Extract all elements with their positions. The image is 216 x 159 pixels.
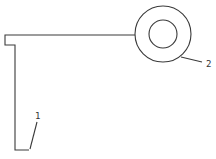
l-bracket bbox=[5, 35, 135, 150]
label-2-group: 2 bbox=[181, 57, 211, 69]
label-2: 2 bbox=[206, 59, 211, 69]
ring-part bbox=[135, 6, 191, 62]
ring-inner bbox=[149, 20, 177, 48]
leader-line-1 bbox=[30, 122, 37, 149]
leader-line-2 bbox=[181, 57, 202, 62]
label-1-group: 1 bbox=[30, 111, 40, 149]
label-1: 1 bbox=[35, 111, 40, 121]
diagram-canvas: 1 2 bbox=[0, 0, 216, 159]
ring-outer bbox=[135, 6, 191, 62]
